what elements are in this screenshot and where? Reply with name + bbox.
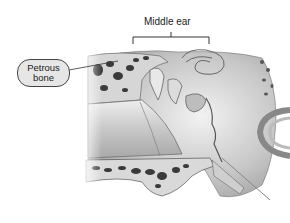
bone-lower — [86, 158, 214, 196]
ear-anatomy-illustration — [0, 0, 290, 223]
middle-ear-label: Middle ear — [144, 16, 191, 27]
petrous-bone-label-line2: bone — [33, 73, 54, 84]
petrous-bone-label: Petrous bone — [17, 59, 70, 87]
middle-ear-bracket — [133, 32, 209, 44]
